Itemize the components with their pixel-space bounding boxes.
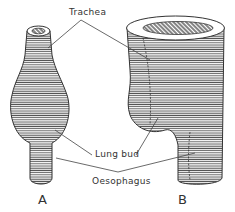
figure-label-b: B — [178, 192, 187, 207]
label-trachea: Trachea — [69, 7, 106, 17]
label-lung-bud: Lung bud — [95, 149, 139, 159]
figure-a-drawing — [11, 26, 69, 184]
figure-label-a: A — [38, 192, 47, 207]
label-oesophagus: Oesophagus — [92, 176, 151, 186]
figure-b-drawing — [127, 16, 225, 184]
